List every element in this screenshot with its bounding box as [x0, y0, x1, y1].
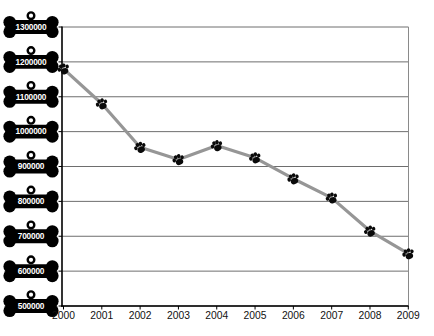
- y-tick-label: 500000: [18, 301, 45, 311]
- dog-bone-tag-icon: 900000: [3, 152, 58, 178]
- y-tick-label: 800000: [18, 196, 45, 206]
- x-tick-label: 2001: [90, 310, 113, 321]
- y-tick-label: 1200000: [16, 57, 47, 67]
- y-tick-label: 600000: [18, 266, 45, 276]
- y-tick-label: 1000000: [16, 126, 47, 136]
- dog-bone-tag-icon: 500000: [3, 291, 58, 317]
- paw-print-icon: [171, 152, 186, 167]
- x-tick-label: 2003: [167, 310, 190, 321]
- dog-bone-tag-icon: 700000: [3, 222, 58, 248]
- x-tick-label: 2005: [244, 310, 267, 321]
- dog-bone-tag-icon: 1100000: [3, 82, 58, 108]
- x-tick-label: 2002: [129, 310, 152, 321]
- x-tick-label: 2004: [205, 310, 228, 321]
- x-tick-label: 2008: [359, 310, 382, 321]
- y-tick-label: 700000: [18, 231, 45, 241]
- y-tick-label: 1100000: [16, 92, 47, 102]
- paw-print-icon: [286, 171, 301, 186]
- dog-bone-tag-icon: 1200000: [3, 47, 58, 73]
- chart-canvas: 1300000120000011000001000000900000800000…: [0, 0, 434, 336]
- paw-print-icon: [247, 151, 262, 166]
- dog-bone-tag-icon: 800000: [3, 187, 58, 213]
- x-tick-label: 2007: [320, 310, 343, 321]
- y-tick-label: 900000: [18, 161, 45, 171]
- dog-bone-tag-icon: 600000: [3, 257, 58, 283]
- dog-bone-tag-icon: 1300000: [3, 12, 58, 38]
- dog-bone-tag-icon: 1000000: [3, 117, 58, 143]
- y-tick-label: 1300000: [16, 22, 47, 32]
- x-tick-label: 2000: [52, 310, 75, 321]
- line-chart: 1300000120000011000001000000900000800000…: [0, 0, 434, 336]
- x-tick-label: 2009: [397, 310, 420, 321]
- paw-print-icon: [401, 246, 416, 261]
- x-tick-label: 2006: [282, 310, 305, 321]
